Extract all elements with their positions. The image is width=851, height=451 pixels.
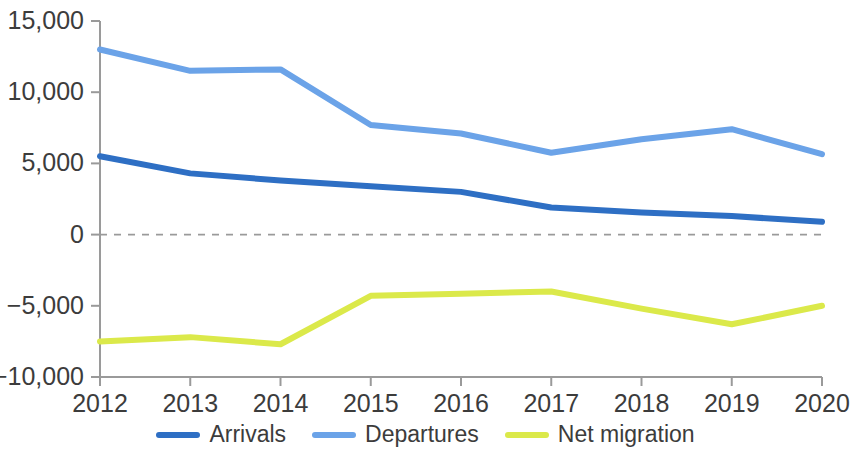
legend-item-arrivals[interactable]: Arrivals [156, 423, 286, 446]
x-axis-tick-label: 2014 [236, 391, 326, 416]
x-axis-tick-label: 2019 [687, 391, 777, 416]
y-axis-tick-label: 15,000 [8, 8, 84, 33]
x-axis-tick-label: 2013 [145, 391, 235, 416]
legend-label: Arrivals [209, 423, 286, 446]
x-axis-tick-label: 2020 [777, 391, 851, 416]
y-axis-tick-label: −10,000 [0, 364, 84, 389]
y-axis-tick-label: −5,000 [7, 293, 84, 318]
migration-line-chart: 15,00010,0005,0000−5,000−10,000 20122013… [0, 0, 851, 451]
x-axis-tick-label: 2012 [55, 391, 145, 416]
series-line-departures [100, 49, 822, 154]
legend-item-departures[interactable]: Departures [312, 423, 479, 446]
series-line-arrivals [100, 156, 822, 222]
y-axis-tick-label: 10,000 [8, 79, 84, 104]
y-axis-tick-label: 0 [70, 222, 84, 247]
legend-swatch-icon [505, 432, 549, 438]
chart-plot-area [0, 0, 851, 451]
legend-label: Departures [365, 423, 479, 446]
y-axis-tick-label: 5,000 [21, 150, 84, 175]
legend-item-net-migration[interactable]: Net migration [505, 423, 695, 446]
series-line-net-migration [100, 292, 822, 345]
legend-label: Net migration [558, 423, 695, 446]
x-axis-tick-label: 2015 [326, 391, 416, 416]
legend-swatch-icon [156, 432, 200, 438]
legend-swatch-icon [312, 432, 356, 438]
x-axis-tick-label: 2018 [597, 391, 687, 416]
x-axis-tick-label: 2016 [416, 391, 506, 416]
chart-legend: ArrivalsDeparturesNet migration [0, 418, 851, 451]
x-axis-tick-label: 2017 [506, 391, 596, 416]
